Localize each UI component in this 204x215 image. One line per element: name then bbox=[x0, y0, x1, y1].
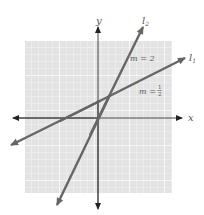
x-axis-label: x bbox=[188, 112, 194, 123]
l2-label: l2 bbox=[142, 15, 149, 27]
slope-diagram: y x l2 l1 m = 2 m = 1 2 bbox=[0, 0, 204, 215]
l1-label: l1 bbox=[189, 52, 196, 64]
y-axis-label: y bbox=[95, 15, 102, 26]
l2-label-sub: 2 bbox=[144, 20, 149, 27]
slope-label-l1: m = bbox=[139, 87, 156, 96]
slope-label-l1-denominator: 2 bbox=[158, 91, 162, 97]
slope-label-l1-numerator: 1 bbox=[158, 84, 162, 90]
slope-label-l2: m = 2 bbox=[130, 54, 154, 63]
l1-label-sub: 1 bbox=[192, 57, 196, 64]
